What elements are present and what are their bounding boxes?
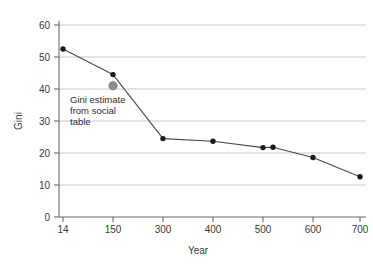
y-tick-label-20: 20 bbox=[39, 148, 51, 159]
data-point-300[interactable] bbox=[160, 136, 165, 141]
chart-canvas: 60 50 40 30 20 10 0 14 150 300 400 500 6… bbox=[0, 0, 373, 269]
x-tick-label-300: 300 bbox=[155, 224, 172, 235]
x-tick-label-600: 600 bbox=[305, 224, 322, 235]
x-tick-label-700: 700 bbox=[352, 224, 369, 235]
y-tick-label-10: 10 bbox=[39, 180, 51, 191]
y-tick-label-30: 30 bbox=[39, 116, 51, 127]
x-tick-label-400: 400 bbox=[205, 224, 222, 235]
annotation-line-1: Gini estimate bbox=[70, 94, 125, 105]
data-point-gini-estimate-social-table[interactable] bbox=[108, 81, 117, 90]
data-point-400[interactable] bbox=[210, 139, 215, 144]
annotation-line-3: table bbox=[70, 116, 91, 127]
data-point-500[interactable] bbox=[260, 145, 265, 150]
y-tick-label-40: 40 bbox=[39, 84, 51, 95]
y-tick-label-60: 60 bbox=[39, 20, 51, 31]
data-point-520[interactable] bbox=[270, 145, 275, 150]
data-point-600[interactable] bbox=[310, 155, 315, 160]
x-tick-label-14: 14 bbox=[57, 224, 69, 235]
x-axis-title: Year bbox=[188, 245, 209, 256]
annotation-line-2: from social bbox=[70, 105, 116, 116]
gini-line-chart: 60 50 40 30 20 10 0 14 150 300 400 500 6… bbox=[0, 0, 373, 269]
y-tick-label-50: 50 bbox=[39, 52, 51, 63]
x-tick-label-150: 150 bbox=[105, 224, 122, 235]
y-axis-title: Gini bbox=[13, 112, 24, 130]
y-tick-label-0: 0 bbox=[44, 212, 50, 223]
data-point-14[interactable] bbox=[60, 46, 65, 51]
data-point-150[interactable] bbox=[110, 72, 115, 77]
x-tick-label-500: 500 bbox=[255, 224, 272, 235]
data-point-700[interactable] bbox=[357, 174, 362, 179]
